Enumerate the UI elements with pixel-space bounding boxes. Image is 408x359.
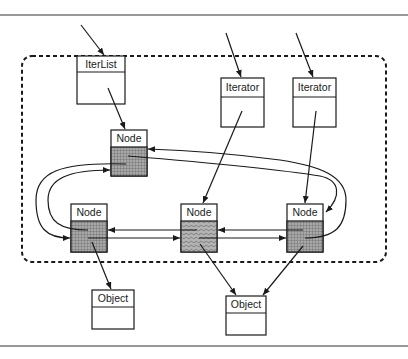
node-top[interactable]: Node [111, 130, 147, 176]
iterator2-label: Iterator [298, 81, 332, 93]
node-right-to-object2-arrow [263, 246, 303, 295]
object2-label: Object [231, 298, 261, 310]
node-left[interactable]: Node [71, 204, 107, 252]
node-mid[interactable]: Node [181, 204, 217, 252]
iterator-box-1[interactable]: Iterator [221, 78, 264, 127]
object-box-1[interactable]: Object [92, 290, 134, 329]
node-right-label: Node [292, 206, 317, 218]
node-left-label: Node [76, 206, 101, 218]
object1-label: Object [98, 292, 128, 304]
iterator1-label: Iterator [226, 81, 260, 93]
node-right[interactable]: Node [287, 204, 323, 252]
node-mid-to-object2-arrow [200, 244, 236, 295]
external-arrow-iterlist [81, 25, 104, 55]
iterlist-box[interactable]: IterList [77, 56, 125, 104]
object-box-2[interactable]: Object [226, 296, 266, 335]
node-mid-label: Node [186, 206, 211, 218]
diagram-canvas: IterList Iterator Iterator Node Node Nod… [0, 0, 408, 359]
iterlist-label: IterList [85, 58, 117, 70]
node-top-label: Node [116, 132, 141, 144]
